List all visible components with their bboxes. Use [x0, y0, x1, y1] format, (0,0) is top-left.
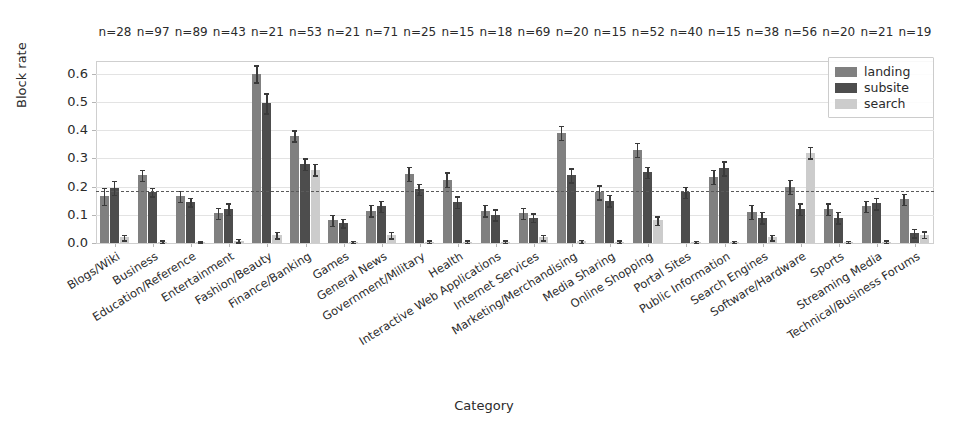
error-bar-cap [351, 241, 356, 242]
axis-spine-bottom [96, 243, 934, 244]
error-bar-cap [140, 181, 145, 182]
error-bar-cap [874, 198, 879, 199]
x-tick-mark [648, 244, 649, 247]
error-bar-cap [236, 242, 241, 243]
bar-search [806, 153, 815, 243]
error-bar [609, 195, 611, 206]
error-bar-cap [922, 238, 927, 239]
error-bar-cap [417, 195, 422, 196]
bar-subsite [148, 192, 157, 243]
error-bar-cap [788, 194, 793, 195]
error-bar [523, 208, 525, 219]
error-bar-cap [846, 241, 851, 242]
error-bar-cap [254, 65, 259, 66]
bar-search [311, 170, 320, 243]
error-bar-cap [597, 185, 602, 186]
x-tick-mark [115, 244, 116, 247]
error-bar-cap [645, 178, 650, 179]
bar-subsite [643, 172, 652, 243]
bar-landing [138, 175, 147, 243]
error-bar-cap [102, 188, 107, 189]
legend-item-landing: landing [835, 64, 927, 79]
error-bar-cap [902, 194, 907, 195]
error-bar-cap [503, 243, 508, 244]
legend-label-subsite: subsite [864, 82, 909, 94]
error-bar-cap [569, 168, 574, 169]
error-bar-cap [341, 219, 346, 220]
reference-line [96, 191, 934, 192]
error-bar-cap [749, 205, 754, 206]
bar-landing [405, 174, 414, 243]
error-bar-cap [826, 215, 831, 216]
error-bar-cap [770, 235, 775, 236]
error-bar [837, 212, 839, 223]
error-bar-cap [503, 240, 508, 241]
error-bar-cap [264, 113, 269, 114]
error-bar [713, 170, 715, 184]
error-bar-cap [188, 198, 193, 199]
error-bar-cap [760, 212, 765, 213]
error-bar [637, 143, 639, 157]
error-bar-cap [864, 212, 869, 213]
bar-subsite [186, 202, 195, 243]
chart-legend: landing subsite search [828, 57, 934, 118]
bar-landing [633, 150, 642, 243]
error-bar-cap [541, 240, 546, 241]
error-bar [294, 130, 296, 141]
error-bar-cap [122, 235, 127, 236]
error-bar-cap [369, 216, 374, 217]
error-bar-cap [617, 243, 622, 244]
error-bar [484, 205, 486, 216]
error-bar-cap [236, 239, 241, 240]
error-bar-cap [102, 205, 107, 206]
error-bar-cap [455, 208, 460, 209]
error-bar-cap [455, 196, 460, 197]
error-bar-cap [198, 243, 203, 244]
error-bar [218, 208, 220, 219]
y-tick-mark [92, 130, 96, 131]
error-bar-cap [407, 167, 412, 168]
error-bar [457, 196, 459, 207]
y-tick-mark [92, 187, 96, 188]
error-bar-cap [874, 209, 879, 210]
error-bar-cap [912, 237, 917, 238]
error-bar-cap [597, 199, 602, 200]
error-bar-cap [808, 158, 813, 159]
bar-subsite [262, 103, 271, 243]
error-bar-cap [264, 93, 269, 94]
error-bar-cap [732, 243, 737, 244]
error-bar [685, 187, 687, 198]
error-bar [571, 168, 573, 182]
x-tick-mark [153, 244, 154, 247]
error-bar-cap [493, 209, 498, 210]
y-tick-mark [92, 158, 96, 159]
error-bar-cap [465, 243, 470, 244]
error-bar-cap [559, 140, 564, 141]
error-bar-cap [683, 187, 688, 188]
error-bar-cap [922, 231, 927, 232]
x-tick-mark [572, 244, 573, 247]
error-bar-cap [531, 213, 536, 214]
x-tick-mark [344, 244, 345, 247]
error-bar-cap [826, 203, 831, 204]
error-bar-cap [579, 243, 584, 244]
y-axis-label: Block rate [14, 42, 29, 108]
error-bar-cap [732, 241, 737, 242]
error-bar-cap [635, 143, 640, 144]
error-bar-cap [607, 195, 612, 196]
error-bar [647, 167, 649, 178]
error-bar-cap [216, 219, 221, 220]
error-bar [751, 205, 753, 219]
axis-spine-top [96, 61, 934, 62]
error-bar [495, 209, 497, 220]
error-bar-cap [711, 170, 716, 171]
error-bar-cap [902, 205, 907, 206]
error-bar-cap [122, 240, 127, 241]
x-tick-mark [191, 244, 192, 247]
error-bar [723, 161, 725, 175]
y-tick-mark [92, 102, 96, 103]
x-tick-mark [915, 244, 916, 247]
error-bar-cap [483, 205, 488, 206]
x-tick-mark [686, 244, 687, 247]
error-bar-cap [330, 215, 335, 216]
